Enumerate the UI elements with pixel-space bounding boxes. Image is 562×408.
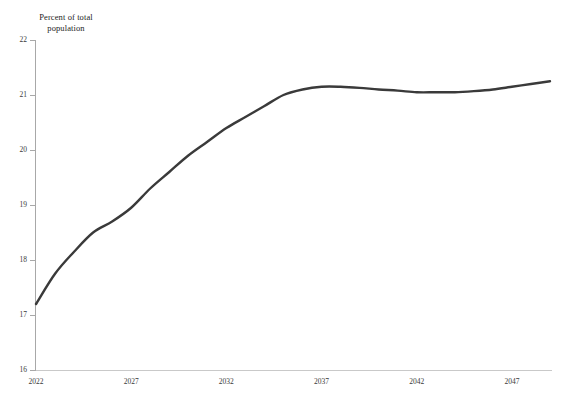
- y-tick-mark: [30, 205, 36, 206]
- y-tick-label: 17: [5, 311, 27, 319]
- x-tick-label-2032: 2032: [206, 377, 246, 386]
- y-tick-mark: [30, 95, 36, 96]
- y-tick-label: 21: [5, 91, 27, 99]
- y-tick-mark: [30, 40, 36, 41]
- series-line-percent-of-total-population: [36, 81, 550, 304]
- y-tick-label: 18: [5, 256, 27, 264]
- line-chart: Percent of total population 222120191817…: [0, 0, 562, 408]
- y-tick-mark: [30, 315, 36, 316]
- y-axis-title-line-1: Percent of total: [39, 12, 93, 22]
- series-plot: [0, 0, 562, 408]
- x-tick-label-2042: 2042: [397, 377, 437, 386]
- y-tick-mark: [30, 260, 36, 261]
- x-tick-label-2022: 2022: [16, 377, 56, 386]
- y-tick-label: 19: [5, 201, 27, 209]
- x-tick-label-2037: 2037: [302, 377, 342, 386]
- y-tick-label: 16: [5, 366, 27, 374]
- x-tick-label-2047: 2047: [492, 377, 532, 386]
- y-tick-label: 20: [5, 146, 27, 154]
- y-axis-title: Percent of total population: [14, 12, 118, 33]
- x-tick-label-2027: 2027: [111, 377, 151, 386]
- y-tick-label: 22: [5, 36, 27, 44]
- x-axis-line: [35, 370, 552, 371]
- y-tick-mark: [30, 150, 36, 151]
- y-axis-title-line-2: population: [14, 23, 118, 34]
- y-tick-mark: [30, 370, 36, 371]
